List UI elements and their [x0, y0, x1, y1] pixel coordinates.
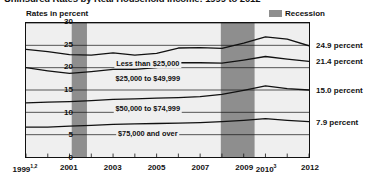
- x-tick-label: 20103: [256, 163, 277, 174]
- series-line: [26, 119, 309, 127]
- recession-swatch-icon: [269, 10, 282, 17]
- x-tick-label: 2012: [301, 163, 319, 172]
- y-axis-caption: Rates in percent: [26, 9, 88, 18]
- uninsured-rates-chart: Uninsured Rates by Real Household Income…: [0, 0, 385, 179]
- x-tick-label: 2009: [235, 163, 253, 172]
- legend: Recession: [269, 9, 325, 18]
- legend-label-recession: Recession: [285, 9, 325, 18]
- y-tick-label: 0: [55, 154, 73, 162]
- series-label: $50,000 to $74,999: [114, 104, 183, 113]
- chart-title: Uninsured Rates by Real Household Income…: [4, 0, 260, 4]
- series-label: $25,000 to $49,999: [114, 74, 183, 83]
- x-tick-label: 2001: [60, 163, 78, 172]
- y-tick-label: 5: [55, 131, 73, 139]
- end-value-label: 21.4 percent: [316, 56, 363, 65]
- series-label: $75,000 and over: [116, 129, 180, 138]
- y-tick-label: 20: [55, 63, 73, 71]
- end-value-label: 24.9 percent: [316, 41, 363, 50]
- y-tick-label: 25: [55, 41, 73, 49]
- end-value-label: 7.9 percent: [316, 118, 358, 127]
- end-value-label: 15.0 percent: [316, 86, 363, 95]
- x-tick-label: 19991,2: [12, 163, 37, 174]
- x-tick-label: 2007: [191, 163, 209, 172]
- series-label: Less than $25,000: [114, 59, 181, 68]
- y-tick-label: 30: [55, 18, 73, 26]
- x-tick-label: 2005: [148, 163, 166, 172]
- y-tick-label: 10: [55, 109, 73, 117]
- y-tick-label: 15: [55, 86, 73, 94]
- x-tick-label: 2003: [104, 163, 122, 172]
